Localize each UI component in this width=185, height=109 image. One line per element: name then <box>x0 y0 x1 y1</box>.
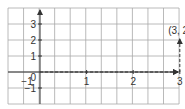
origin-label: 0 <box>30 72 36 83</box>
point-label: (3, 2) <box>168 25 185 36</box>
y-tick-label: 2 <box>30 35 36 46</box>
x-tick-label: 3 <box>177 76 183 87</box>
coordinate-plane-diagram: −1123−1123 (3, 2) 0 <box>0 0 185 109</box>
y-tick-label: 1 <box>30 51 36 62</box>
y-tick-label: −1 <box>25 83 37 94</box>
x-tick-label: 1 <box>84 76 90 87</box>
coordinate-plane: −1123−1123 (3, 2) 0 <box>0 0 185 109</box>
dashed-path-arrows <box>40 39 180 72</box>
y-tick-label: 3 <box>30 19 36 30</box>
x-tick-label: 2 <box>130 76 136 87</box>
